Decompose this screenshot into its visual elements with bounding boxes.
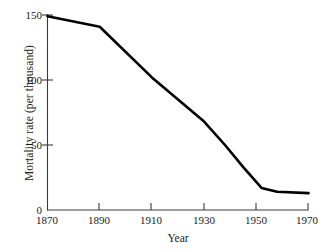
mortality-rate-line-chart: Mortality rate (per thousand) Year 150 1… <box>0 0 330 252</box>
mortality-rate-line <box>48 16 309 193</box>
x-tick-marks <box>99 203 308 210</box>
plot-area <box>0 0 330 252</box>
